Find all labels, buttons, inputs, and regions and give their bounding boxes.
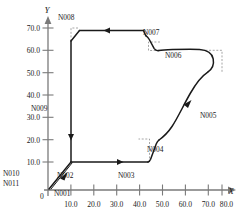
block-label-n010: N010 (3, 169, 20, 178)
toolpath-profile (49, 31, 213, 190)
block-label-n002: N002 (57, 171, 74, 180)
segment-n005-arc (159, 72, 208, 140)
x-tick-label-40: 40.0 (133, 200, 146, 209)
toolpath-diagram-svg: 10.0 20.0 30.0 40.0 50.0 60.0 70.0 80.0 … (0, 0, 239, 220)
x-tick-label-60: 60.0 (179, 200, 192, 209)
x-tick-label-70: 70.0 (202, 200, 215, 209)
block-label-n001: N001 (54, 189, 71, 198)
y-tick-label-70: 70.0 (27, 24, 40, 33)
y-tick-label-40: 40.0 (27, 91, 40, 100)
block-label-n004: N004 (147, 145, 164, 154)
arrow-n008-left (104, 28, 111, 34)
block-label-n009: N009 (31, 104, 48, 113)
block-label-n011: N011 (3, 179, 19, 188)
arrow-n003-right (117, 159, 124, 165)
y-tick-label-10: 10.0 (27, 158, 40, 167)
x-tick-label-10: 10.0 (64, 200, 77, 209)
block-label-n008: N008 (58, 13, 75, 22)
x-tick-label-30: 30.0 (110, 200, 123, 209)
block-label-n003: N003 (118, 171, 135, 180)
y-tick-label-20: 20.0 (27, 136, 40, 145)
x-tick-label-80: 80.0 (220, 200, 233, 209)
y-tick-label-50: 50.0 (27, 69, 40, 78)
arrow-n005-upright (184, 100, 192, 108)
x-axis-label: X (227, 186, 234, 196)
block-label-n005: N005 (200, 111, 217, 120)
y-axis-label: Y (44, 5, 50, 15)
y-axis-arrow (45, 16, 52, 24)
figure-canvas: 10.0 20.0 30.0 40.0 50.0 60.0 70.0 80.0 … (0, 0, 239, 220)
origin-label: 0 (40, 192, 44, 201)
segment-n007-step (146, 36, 159, 51)
block-label-n006: N006 (165, 51, 182, 60)
segment-n008-chamfer (71, 31, 80, 42)
dashed-corner-guides (71, 28, 222, 162)
block-label-n007: N007 (143, 28, 160, 37)
y-tick-label-60: 60.0 (27, 46, 40, 55)
x-tick-label-20: 20.0 (87, 200, 100, 209)
block-label-group: N001 N002 N003 N004 N005 N006 N007 N008 … (3, 13, 217, 198)
arrow-n009-down (68, 134, 74, 141)
y-tick-label-30: 30.0 (27, 113, 40, 122)
x-tick-label-50: 50.0 (156, 200, 169, 209)
